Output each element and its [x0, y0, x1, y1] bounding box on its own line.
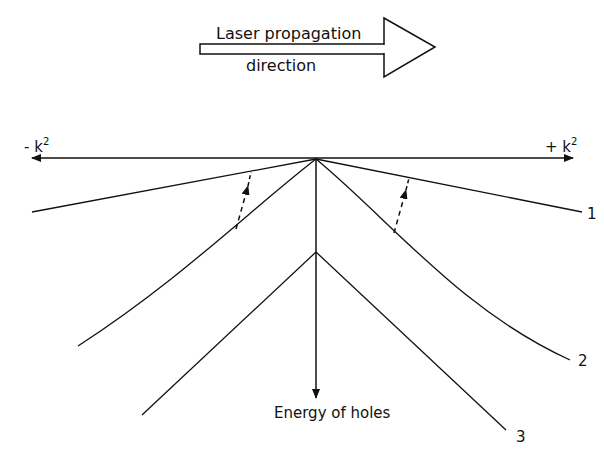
band-1 — [32, 159, 582, 212]
band-1-label: 1 — [587, 205, 597, 223]
minus-k-label: - k2 — [24, 136, 49, 156]
transition-arrow-left — [236, 186, 248, 229]
energy-axis-label: Energy of holes — [274, 404, 391, 422]
transition-arrow-right — [394, 190, 406, 233]
laser-label-line2: direction — [246, 56, 316, 75]
plus-k-label: + k2 — [545, 136, 577, 156]
transition-dash-right-top — [406, 178, 409, 190]
laser-label-line1: Laser propagation — [216, 24, 361, 43]
band-diagram: Laser propagation direction - k2 + k2 En… — [0, 0, 604, 455]
transition-dash-left-top — [248, 172, 251, 186]
band-3-label: 3 — [516, 428, 526, 446]
band-2-label: 2 — [578, 352, 588, 370]
